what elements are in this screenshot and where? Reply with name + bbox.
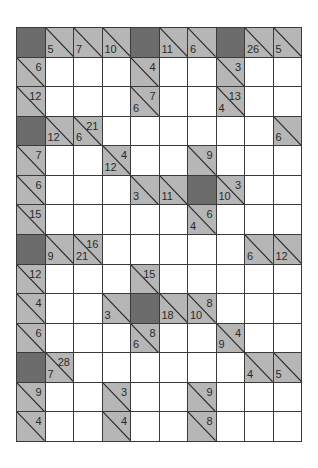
- entry-cell[interactable]: [103, 205, 131, 234]
- entry-cell[interactable]: [160, 324, 188, 353]
- entry-cell[interactable]: [74, 58, 102, 87]
- entry-cell[interactable]: [245, 383, 273, 412]
- entry-cell[interactable]: [160, 353, 188, 382]
- entry-cell[interactable]: [217, 412, 245, 441]
- across-clue: 28: [58, 357, 70, 368]
- across-clue: 15: [29, 209, 41, 220]
- entry-cell[interactable]: [74, 176, 102, 205]
- entry-cell[interactable]: [160, 117, 188, 146]
- entry-cell[interactable]: [217, 353, 245, 382]
- entry-cell[interactable]: [46, 58, 74, 87]
- entry-cell[interactable]: [217, 235, 245, 264]
- entry-cell[interactable]: [274, 383, 302, 412]
- entry-cell[interactable]: [46, 176, 74, 205]
- entry-cell[interactable]: [160, 205, 188, 234]
- entry-cell[interactable]: [245, 265, 273, 294]
- entry-cell[interactable]: [217, 146, 245, 175]
- across-clue: 4: [35, 298, 41, 309]
- entry-cell[interactable]: [160, 265, 188, 294]
- clue-cell: 6: [17, 176, 45, 205]
- across-clue: 4: [235, 328, 241, 339]
- entry-cell[interactable]: [103, 324, 131, 353]
- across-clue: 8: [149, 328, 155, 339]
- entry-cell[interactable]: [131, 353, 159, 382]
- entry-cell[interactable]: [74, 324, 102, 353]
- entry-cell[interactable]: [274, 265, 302, 294]
- entry-cell[interactable]: [188, 58, 216, 87]
- entry-cell[interactable]: [103, 176, 131, 205]
- entry-cell[interactable]: [46, 146, 74, 175]
- entry-cell[interactable]: [46, 383, 74, 412]
- entry-cell[interactable]: [46, 265, 74, 294]
- entry-cell[interactable]: [188, 235, 216, 264]
- entry-cell[interactable]: [103, 235, 131, 264]
- entry-cell[interactable]: [131, 383, 159, 412]
- entry-cell[interactable]: [217, 205, 245, 234]
- across-clue: 16: [86, 239, 98, 250]
- entry-cell[interactable]: [274, 87, 302, 116]
- entry-cell[interactable]: [74, 205, 102, 234]
- entry-cell[interactable]: [131, 117, 159, 146]
- entry-cell[interactable]: [74, 294, 102, 323]
- entry-cell[interactable]: [160, 383, 188, 412]
- entry-cell[interactable]: [245, 87, 273, 116]
- entry-cell[interactable]: [46, 412, 74, 441]
- entry-cell[interactable]: [245, 324, 273, 353]
- entry-cell[interactable]: [188, 353, 216, 382]
- clue-cell: 94: [217, 324, 245, 353]
- entry-cell[interactable]: [160, 146, 188, 175]
- entry-cell[interactable]: [274, 146, 302, 175]
- entry-cell[interactable]: [131, 235, 159, 264]
- entry-cell[interactable]: [46, 294, 74, 323]
- entry-cell[interactable]: [74, 383, 102, 412]
- entry-cell[interactable]: [274, 324, 302, 353]
- entry-cell[interactable]: [131, 412, 159, 441]
- entry-cell[interactable]: [188, 324, 216, 353]
- entry-cell[interactable]: [245, 412, 273, 441]
- entry-cell[interactable]: [103, 353, 131, 382]
- entry-cell[interactable]: [160, 87, 188, 116]
- entry-cell[interactable]: [245, 294, 273, 323]
- entry-cell[interactable]: [103, 87, 131, 116]
- entry-cell[interactable]: [188, 117, 216, 146]
- across-clue: 6: [206, 209, 212, 220]
- entry-cell[interactable]: [245, 58, 273, 87]
- entry-cell[interactable]: [74, 146, 102, 175]
- clue-cell: 9: [46, 235, 74, 264]
- entry-cell[interactable]: [103, 117, 131, 146]
- entry-cell[interactable]: [245, 117, 273, 146]
- across-clue: 15: [143, 269, 155, 280]
- entry-cell[interactable]: [188, 87, 216, 116]
- clue-cell: 103: [217, 176, 245, 205]
- entry-cell[interactable]: [103, 58, 131, 87]
- entry-cell[interactable]: [46, 87, 74, 116]
- entry-cell[interactable]: [274, 58, 302, 87]
- entry-cell[interactable]: [274, 176, 302, 205]
- entry-cell[interactable]: [245, 205, 273, 234]
- clue-cell: 621: [74, 117, 102, 146]
- entry-cell[interactable]: [217, 294, 245, 323]
- entry-cell[interactable]: [46, 324, 74, 353]
- entry-cell[interactable]: [131, 146, 159, 175]
- entry-cell[interactable]: [274, 205, 302, 234]
- entry-cell[interactable]: [217, 265, 245, 294]
- entry-cell[interactable]: [46, 205, 74, 234]
- entry-cell[interactable]: [217, 117, 245, 146]
- entry-cell[interactable]: [74, 265, 102, 294]
- entry-cell[interactable]: [160, 412, 188, 441]
- entry-cell[interactable]: [188, 265, 216, 294]
- clue-cell: 728: [46, 353, 74, 382]
- entry-cell[interactable]: [131, 205, 159, 234]
- entry-cell[interactable]: [160, 235, 188, 264]
- entry-cell[interactable]: [74, 412, 102, 441]
- entry-cell[interactable]: [74, 353, 102, 382]
- entry-cell[interactable]: [103, 265, 131, 294]
- entry-cell[interactable]: [245, 176, 273, 205]
- clue-cell: 11: [160, 28, 188, 57]
- entry-cell[interactable]: [160, 58, 188, 87]
- entry-cell[interactable]: [274, 412, 302, 441]
- entry-cell[interactable]: [217, 383, 245, 412]
- entry-cell[interactable]: [245, 146, 273, 175]
- entry-cell[interactable]: [74, 87, 102, 116]
- entry-cell[interactable]: [274, 294, 302, 323]
